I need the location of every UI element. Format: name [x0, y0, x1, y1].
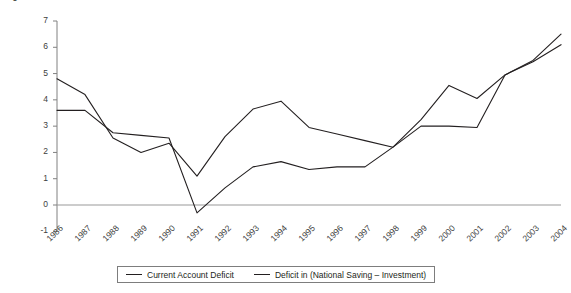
legend-line-swatch [126, 274, 142, 275]
y-tick-label: 7 [30, 16, 48, 25]
y-tick-label: 5 [30, 69, 48, 78]
series-line-0 [57, 45, 561, 213]
series-line-1 [57, 34, 561, 176]
legend-item-label: Current Account Deficit [147, 270, 234, 280]
y-tick-label: 6 [30, 42, 48, 51]
plot-area [0, 0, 571, 293]
legend-item-label: Deficit in (National Saving – Investment… [275, 270, 426, 280]
legend-line-swatch [254, 274, 270, 275]
y-tick-label: 1 [30, 174, 48, 183]
legend-item-1: Deficit in (National Saving – Investment… [254, 270, 426, 280]
legend-item-0: Current Account Deficit [126, 270, 234, 280]
y-tick-label: 2 [30, 147, 48, 156]
chart-figure: % of National Income 76543210-1 19861987… [0, 0, 571, 293]
series-layer [57, 34, 561, 213]
y-tick-label: 0 [30, 200, 48, 209]
y-tick-label: 3 [30, 121, 48, 130]
chart-legend: Current Account DeficitDeficit in (Natio… [117, 266, 435, 283]
y-tick-label: 4 [30, 95, 48, 104]
